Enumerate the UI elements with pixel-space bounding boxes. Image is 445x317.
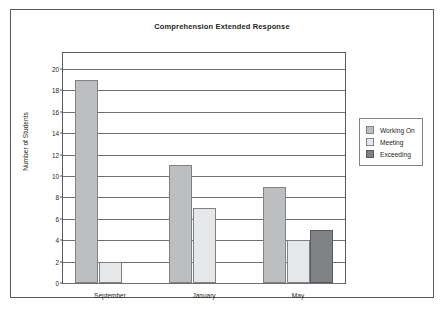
gridline: 16 (63, 112, 345, 113)
y-tick-label: 2 (55, 258, 59, 265)
legend-item-working-on: Working On (366, 124, 415, 136)
plot-area: 02468101214161820 SeptemberJanuaryMay (62, 52, 346, 284)
y-tick-mark (60, 111, 63, 112)
gridline: 14 (63, 133, 345, 134)
y-tick-mark (60, 240, 63, 241)
gridline: 20 (63, 69, 345, 70)
gridline: 0 (63, 283, 345, 284)
x-tick-label-may: May (292, 292, 304, 299)
chart-figure: Comprehension Extended Response Number o… (10, 9, 434, 298)
y-tick-mark (60, 283, 63, 284)
legend-item-meeting: Meeting (366, 136, 415, 148)
gridline: 18 (63, 90, 345, 91)
y-tick-label: 0 (55, 280, 59, 287)
y-tick-mark (60, 154, 63, 155)
y-tick-label: 14 (52, 130, 59, 137)
y-tick-label: 20 (52, 66, 59, 73)
y-tick-label: 12 (52, 151, 59, 158)
y-tick-mark (60, 218, 63, 219)
y-tick-label: 4 (55, 237, 59, 244)
legend-label: Exceeding (380, 151, 411, 158)
legend-item-exceeding: Exceeding (366, 148, 415, 160)
y-tick-mark (60, 261, 63, 262)
legend: Working OnMeetingExceeding (359, 118, 423, 166)
gridline: 8 (63, 197, 345, 198)
legend-swatch-icon (366, 150, 374, 158)
y-tick-mark (60, 176, 63, 177)
legend-label: Working On (380, 127, 415, 134)
y-tick-label: 16 (52, 108, 59, 115)
chart-title: Comprehension Extended Response (11, 22, 433, 31)
y-tick-label: 8 (55, 194, 59, 201)
y-tick-mark (60, 90, 63, 91)
legend-label: Meeting (380, 139, 403, 146)
y-tick-label: 10 (52, 173, 59, 180)
x-tick-label-september: September (94, 292, 126, 299)
bar-may-working-on (263, 187, 286, 283)
bar-september-meeting (99, 262, 122, 283)
bar-january-working-on (169, 165, 192, 283)
bar-may-meeting (287, 240, 310, 283)
y-tick-mark (60, 197, 63, 198)
bar-january-meeting (193, 208, 216, 283)
y-tick-mark (60, 69, 63, 70)
gridline: 12 (63, 155, 345, 156)
bar-may-exceeding (310, 230, 333, 283)
y-tick-label: 6 (55, 215, 59, 222)
x-tick-label-january: January (192, 292, 215, 299)
legend-swatch-icon (366, 126, 374, 134)
legend-swatch-icon (366, 138, 374, 146)
y-tick-mark (60, 133, 63, 134)
y-axis-title: Number of Students (22, 82, 29, 202)
gridline: 10 (63, 176, 345, 177)
bar-september-working-on (75, 80, 98, 283)
y-tick-label: 18 (52, 87, 59, 94)
